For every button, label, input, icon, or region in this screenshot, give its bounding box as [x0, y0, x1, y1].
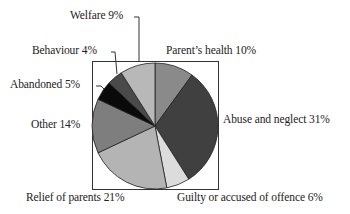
label-abandoned: Abandoned 5% [10, 78, 80, 90]
label-guilty-offence: Guilty or accused of offence 6% [177, 191, 323, 203]
leader-abandoned [96, 86, 104, 89]
label-abuse-neglect: Abuse and neglect 31% [223, 113, 330, 125]
label-relief-of-parents: Relief of parents 21% [26, 191, 125, 203]
label-behaviour: Behaviour 4% [32, 44, 97, 56]
leader-behaviour [111, 52, 117, 74]
pie-chart [0, 0, 350, 214]
pie-slices [92, 63, 218, 189]
label-parents-health: Parent’s health 10% [166, 44, 256, 56]
leader-welfare [134, 17, 139, 62]
label-welfare: Welfare 9% [70, 9, 123, 21]
label-other: Other 14% [31, 118, 80, 130]
